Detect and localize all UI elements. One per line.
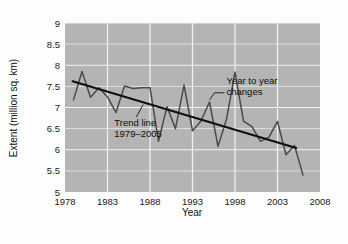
x-tick-label: 1978: [54, 196, 75, 207]
y-tick-label: 7.5: [47, 81, 60, 92]
annotation-label: Trend line1979–2005: [114, 117, 162, 139]
y-axis-title: Extent (million sq. km): [8, 59, 19, 157]
sea-ice-extent-chart: 55.566.577.588.59 1978198319881993199820…: [0, 0, 348, 244]
figure-container: 55.566.577.588.59 1978198319881993199820…: [0, 0, 348, 244]
y-axis-tick-labels: 55.566.577.588.59: [47, 18, 60, 198]
x-axis-tick-labels: 1978198319881993199820032008: [54, 196, 330, 207]
y-tick-label: 9: [55, 18, 60, 29]
y-tick-label: 6: [55, 144, 60, 155]
plot-area: [65, 23, 320, 192]
x-tick-label: 2008: [309, 196, 330, 207]
x-tick-label: 1993: [182, 196, 203, 207]
y-tick-label: 8.5: [47, 39, 60, 50]
y-tick-label: 5.5: [47, 165, 60, 176]
x-tick-label: 1988: [139, 196, 160, 207]
x-tick-label: 1983: [97, 196, 118, 207]
y-tick-label: 8: [55, 60, 60, 71]
x-tick-label: 1998: [224, 196, 245, 207]
x-axis-title: Year: [182, 207, 203, 218]
x-tick-label: 2003: [267, 196, 288, 207]
y-tick-label: 6.5: [47, 123, 60, 134]
y-tick-label: 7: [55, 102, 60, 113]
